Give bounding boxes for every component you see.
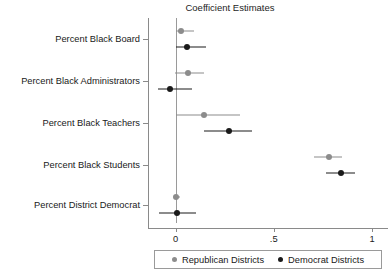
legend-marker-icon	[172, 257, 177, 262]
chart-title: Coefficient Estimates	[160, 2, 300, 13]
legend-item-republican: Republican Districts	[172, 255, 264, 265]
data-point	[201, 112, 207, 118]
data-point	[167, 86, 173, 92]
y-axis-label: Percent Black Teachers	[43, 118, 141, 128]
y-axis-label: Percent Black Administrators	[21, 76, 140, 86]
confidence-interval-bar	[176, 47, 205, 48]
y-axis-tick	[143, 81, 148, 82]
x-axis-tick	[274, 228, 275, 232]
data-point	[226, 128, 232, 134]
x-axis-tick-label: .5	[270, 234, 278, 244]
y-axis-line	[148, 18, 149, 229]
y-axis-tick	[143, 205, 148, 206]
data-point	[185, 70, 191, 76]
data-point	[178, 28, 184, 34]
x-axis-tick-label: 0	[173, 234, 178, 244]
x-axis-tick-label: 1	[369, 234, 374, 244]
confidence-interval-bar	[158, 89, 192, 90]
legend-marker-icon	[278, 257, 283, 262]
y-axis-label: Percent Black Students	[43, 160, 140, 170]
legend-label-republican: Republican Districts	[182, 255, 264, 265]
coefficient-plot: Coefficient Estimates Percent Black Boar…	[0, 0, 388, 275]
zero-reference-line	[176, 18, 177, 223]
y-axis-tick	[143, 123, 148, 124]
y-axis-label: Percent District Democrat	[34, 200, 140, 210]
data-point	[174, 210, 180, 216]
y-axis-tick	[143, 165, 148, 166]
y-axis-tick	[143, 39, 148, 40]
x-axis-tick	[372, 228, 373, 232]
data-point	[184, 44, 190, 50]
confidence-interval-bar	[176, 115, 240, 116]
legend-label-democrat: Democrat Districts	[288, 255, 364, 265]
data-point	[326, 154, 332, 160]
y-axis-label: Percent Black Board	[55, 34, 140, 44]
x-axis-line	[148, 228, 388, 229]
legend-item-democrat: Democrat Districts	[278, 255, 364, 265]
data-point	[173, 194, 179, 200]
data-point	[338, 170, 344, 176]
legend: Republican Districts Democrat Districts	[154, 250, 382, 269]
x-axis-tick	[176, 228, 177, 232]
